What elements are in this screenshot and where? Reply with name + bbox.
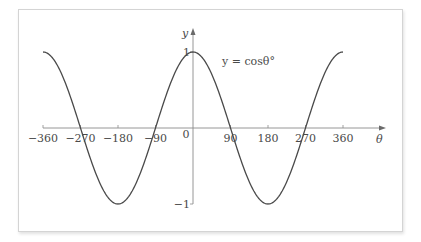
x-tick-label: 0 — [183, 128, 190, 141]
x-tick-label: −90 — [144, 132, 167, 145]
axes: −360−270−180−90090180270360 1−1 — [28, 28, 386, 211]
y-tick-label: −1 — [174, 198, 190, 211]
x-axis-label: θ — [376, 133, 383, 146]
x-tick-label: 360 — [333, 132, 354, 145]
cosine-chart: −360−270−180−90090180270360 1−1 y = cosθ… — [0, 0, 421, 242]
x-tick-label: −270 — [65, 132, 95, 145]
y-axis-label: y — [181, 27, 189, 40]
x-tick-label: 270 — [295, 132, 316, 145]
x-tick-label: −180 — [103, 132, 133, 145]
x-tick-label: 180 — [258, 132, 279, 145]
y-axis-arrow-icon — [191, 28, 196, 35]
x-axis-arrow-icon — [379, 126, 386, 131]
x-tick-label: −360 — [28, 132, 58, 145]
equation-label: y = cosθ° — [221, 55, 275, 68]
